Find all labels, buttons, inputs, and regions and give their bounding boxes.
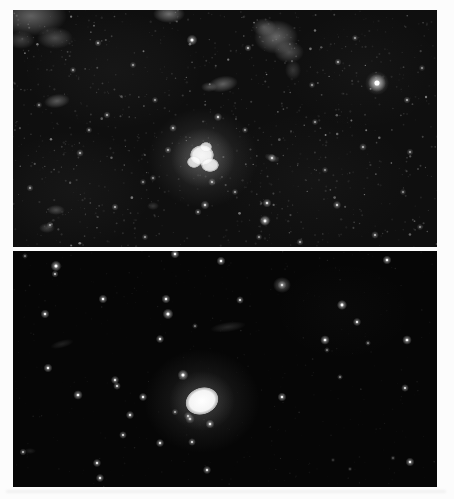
top-photograph <box>13 10 437 247</box>
photo-plate <box>0 0 454 499</box>
scan-artifact-smudge <box>6 490 446 493</box>
bottom-photograph-starfield-canvas <box>13 251 437 487</box>
bottom-photograph <box>13 251 437 487</box>
top-photograph-starfield-canvas <box>13 10 437 247</box>
